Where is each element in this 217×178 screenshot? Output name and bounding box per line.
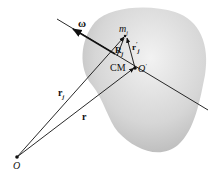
o-prime-label: O′ [138,63,147,74]
r-prime-j-prime: ′ [136,41,138,47]
r-prime-j-label: r′j [132,41,139,54]
r-j-sub: j [62,94,64,100]
r-label: r [82,112,86,122]
diagram-canvas [0,0,217,178]
cm-point [133,66,137,70]
cm-label: CM [110,63,126,73]
R-j-sub: j [122,51,124,57]
mass-label-sub: j [126,30,128,36]
mass-label: mj [119,24,128,36]
R-j-label: Rj [115,46,123,57]
rigid-body-diagram: ω mj r′j Rj CM O′ rj r O [0,0,217,178]
origin-label: O [13,161,20,171]
r-prime-j-sub: j [138,48,140,54]
omega-label: ω [78,18,86,29]
o-prime-mark: ′ [145,63,146,69]
origin-point [15,155,19,159]
rigid-body-shape [83,7,207,152]
r-j-label: rj [58,88,64,100]
